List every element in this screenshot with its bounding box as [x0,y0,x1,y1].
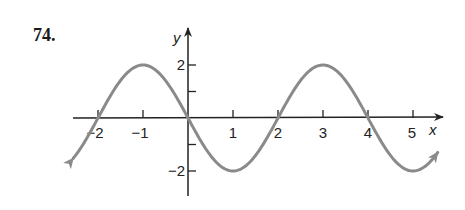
y-axis-label: y [172,29,182,46]
x-axis-label: x [428,121,437,138]
x-tick-label: 5 [408,124,416,141]
x-tick-label: 4 [364,124,372,141]
x-tick-label: −1 [131,124,148,141]
x-axis [73,117,443,118]
x-tick-label: 3 [319,124,327,141]
y-tick-label: −2 [168,162,185,179]
x-tick-label: 1 [229,124,237,141]
x-tick-label: 2 [274,124,282,141]
axes [73,28,443,196]
y-tick-label: 2 [177,56,185,73]
sine-graph: −2−1123452−2 x y [0,0,465,210]
